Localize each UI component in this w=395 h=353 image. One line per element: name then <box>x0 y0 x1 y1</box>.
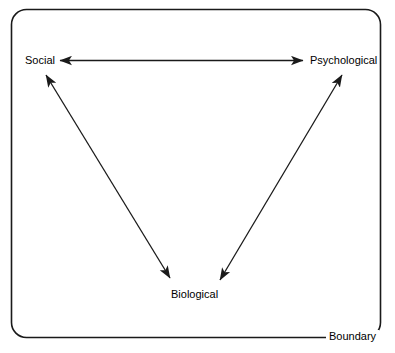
edge-social-biological <box>46 75 170 278</box>
node-label-biological: Biological <box>171 288 218 300</box>
node-label-psychological: Psychological <box>310 54 377 66</box>
diagram-graphics <box>0 0 395 353</box>
diagram-canvas: Social Psychological Biological Boundary <box>0 0 395 353</box>
boundary-label: Boundary <box>326 330 379 342</box>
node-label-social: Social <box>25 54 55 66</box>
edge-psychological-biological <box>220 75 342 280</box>
